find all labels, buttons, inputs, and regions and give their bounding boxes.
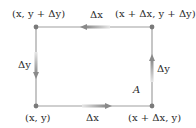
corner-dot-bottom-right [150, 104, 155, 109]
corner-dot-top-right [150, 25, 155, 30]
label-top-right: (x + Δx, y + Δy) [115, 8, 196, 19]
label-right-edge: Δy [157, 63, 170, 74]
label-bottom-left: (x, y) [25, 112, 51, 123]
label-top-left: (x, y + Δy) [12, 8, 65, 19]
corner-dot-bottom-left [34, 104, 39, 109]
label-bottom-edge: Δx [86, 112, 99, 123]
arrow-left-icon [80, 24, 110, 30]
corner-dot-top-left [34, 25, 39, 30]
label-top-edge: Δx [90, 9, 103, 20]
label-bottom-right: (x + Δx, y) [128, 112, 181, 123]
label-region: A [132, 84, 140, 95]
arrow-right-icon [82, 103, 112, 109]
arrow-up-icon [149, 54, 155, 82]
arrow-down-icon [33, 52, 39, 79]
rectangle-path-diagram: (x, y + Δy) (x + Δx, y + Δy) (x, y) (x +… [0, 0, 196, 128]
label-left-edge: Δy [18, 59, 31, 70]
